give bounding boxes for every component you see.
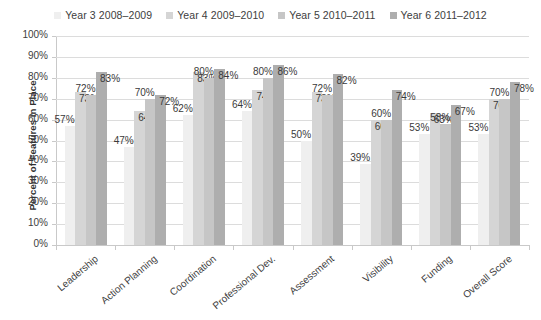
legend-swatch-icon (278, 12, 285, 19)
bar-value-label: 57% (52, 114, 78, 125)
bar[interactable] (499, 99, 510, 245)
y-tick-label: 40% (4, 154, 48, 165)
bar[interactable] (430, 113, 441, 245)
category-label: Leadership (55, 253, 100, 293)
y-tick-label: 30% (4, 175, 48, 186)
bar[interactable] (145, 99, 156, 245)
legend-swatch-icon (166, 12, 173, 19)
bar[interactable] (204, 78, 215, 245)
bar-group: 62%83%80%84% (174, 36, 233, 245)
bar-value-label: 60% (368, 108, 394, 119)
bar-group: 53%70%70%78% (470, 36, 529, 245)
bar[interactable] (124, 147, 135, 245)
category-label: Coordination (167, 253, 218, 298)
legend-swatch-icon (390, 12, 397, 19)
bar-value-label: 64% (229, 99, 255, 110)
bar[interactable] (134, 111, 145, 245)
bar-value-label: 72% (309, 83, 335, 94)
bar-value-label: 72% (73, 83, 99, 94)
bar[interactable] (312, 92, 323, 245)
legend-item[interactable]: Year 4 2009–2010 (166, 9, 264, 21)
bar[interactable] (333, 74, 344, 245)
bar-group: 47%64%70%72% (115, 36, 174, 245)
y-axis-title: Percent of Features In Place (27, 56, 38, 236)
y-tick-label: 90% (4, 50, 48, 61)
bar-value-label: 78% (511, 83, 537, 94)
bar[interactable] (242, 111, 253, 245)
bar-value-label: 47% (111, 135, 137, 146)
x-tick-mark (352, 246, 353, 250)
bar-value-label: 53% (406, 122, 432, 133)
bar-group: 64%74%80%86% (233, 36, 292, 245)
bar-value-label: 70% (486, 87, 512, 98)
bar-value-label: 39% (347, 152, 373, 163)
bar-group: 57%73%72%83% (56, 36, 115, 245)
bar-value-label: 50% (288, 129, 314, 140)
bar[interactable] (419, 134, 430, 245)
bar[interactable] (478, 134, 489, 245)
bar[interactable] (451, 105, 462, 245)
y-tick-label: 50% (4, 134, 48, 145)
bar[interactable] (214, 69, 225, 245)
bar[interactable] (510, 82, 521, 245)
bar[interactable] (489, 99, 500, 245)
bar-group: 39%60%60%74% (352, 36, 411, 245)
category-label: Professional Dev. (211, 253, 278, 311)
legend-label: Year 3 2008–2009 (65, 9, 152, 21)
category-label: Assessment (287, 253, 336, 296)
legend-label: Year 5 2010–2011 (289, 9, 375, 21)
x-tick-mark (115, 246, 116, 250)
bar[interactable] (96, 72, 107, 245)
y-tick-label: 0% (4, 238, 48, 249)
x-tick-mark (293, 246, 294, 250)
category-label: Visibility (361, 253, 396, 285)
bar-group: 50%73%72%82% (293, 36, 352, 245)
bar-value-label: 80% (250, 66, 276, 77)
bar[interactable] (65, 126, 76, 245)
bar-value-label: 80% (191, 66, 217, 77)
bar-value-label: 70% (132, 87, 158, 98)
bar[interactable] (263, 78, 274, 245)
category-label: Overall Score (460, 253, 513, 300)
x-tick-mark (174, 246, 175, 250)
y-tick-label: 10% (4, 217, 48, 228)
x-tick-mark (56, 246, 57, 250)
category-label: Funding (420, 253, 455, 285)
bar[interactable] (75, 92, 86, 245)
bar-value-label: 62% (170, 103, 196, 114)
x-tick-mark (411, 246, 412, 250)
bar[interactable] (381, 120, 392, 245)
chart-legend: Year 3 2008–2009Year 4 2009–2010Year 5 2… (0, 9, 541, 21)
x-tick-mark (233, 246, 234, 250)
legend-item[interactable]: Year 3 2008–2009 (54, 9, 152, 21)
category-label: Action Planning (99, 253, 159, 306)
bar[interactable] (86, 95, 97, 245)
bar[interactable] (183, 115, 194, 245)
legend-item[interactable]: Year 6 2011–2012 (390, 9, 487, 21)
bar[interactable] (371, 120, 382, 245)
y-tick-label: 80% (4, 71, 48, 82)
bar-value-label: 58% (427, 112, 453, 123)
bar[interactable] (155, 95, 166, 245)
bar[interactable] (360, 164, 371, 246)
y-tick-label: 100% (4, 29, 48, 40)
plot-area: 57%73%72%83%47%64%70%72%62%83%80%84%64%7… (56, 36, 529, 245)
bar[interactable] (273, 65, 284, 245)
bar[interactable] (301, 141, 312, 246)
bar[interactable] (392, 90, 403, 245)
bar-chart: Year 3 2008–2009Year 4 2009–2010Year 5 2… (0, 0, 541, 320)
y-tick-label: 60% (4, 113, 48, 124)
bar[interactable] (322, 95, 333, 245)
legend-item[interactable]: Year 5 2010–2011 (278, 9, 375, 21)
bar-group: 53%63%58%67% (411, 36, 470, 245)
bar[interactable] (440, 124, 451, 245)
bar[interactable] (193, 72, 204, 245)
x-tick-mark (529, 246, 530, 250)
y-tick-label: 70% (4, 92, 48, 103)
y-tick-label: 20% (4, 196, 48, 207)
legend-label: Year 4 2009–2010 (177, 9, 264, 21)
legend-swatch-icon (54, 12, 61, 19)
x-tick-mark (470, 246, 471, 250)
bar-value-label: 53% (465, 122, 491, 133)
bar[interactable] (252, 90, 263, 245)
